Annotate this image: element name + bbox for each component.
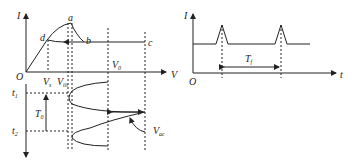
current-pulses <box>193 25 310 44</box>
vac-label: Vac <box>153 125 165 137</box>
i-axis-label: I <box>16 10 21 21</box>
right-origin-label: O <box>189 76 196 87</box>
point-d: d <box>40 32 46 43</box>
voltage-waveform <box>26 82 145 157</box>
origin-label: O <box>16 71 23 82</box>
right-t-label: t <box>340 69 343 80</box>
vac-pointer <box>130 118 145 132</box>
t1-label: t1 <box>12 87 18 99</box>
voltage-curve <box>69 82 145 146</box>
right-i-label: I <box>183 10 188 21</box>
v-axis-label: V <box>171 69 179 80</box>
iv-curve-drop <box>71 23 84 42</box>
t2-label: t2 <box>12 125 18 137</box>
iv-curve-return <box>48 40 64 42</box>
point-a: a <box>68 12 73 23</box>
point-b: b <box>86 35 91 46</box>
vs-label: Vs <box>43 76 52 88</box>
current-waveform <box>193 14 336 78</box>
v0-label: V0 <box>112 59 121 71</box>
vth-label: Vth <box>57 76 68 88</box>
point-c: c <box>148 37 153 48</box>
t0-label: T0 <box>35 108 44 120</box>
tf-label: Tf <box>245 53 254 65</box>
gunn-diode-diagram: I V O a b c d Vs Vth V0 t1 t2 T0 Vac I t… <box>0 0 352 161</box>
